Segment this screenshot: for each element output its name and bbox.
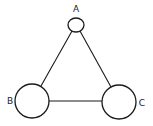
node-c — [102, 85, 136, 119]
node-a — [68, 18, 84, 32]
node-c-label: C — [139, 98, 145, 108]
node-b — [15, 84, 49, 118]
node-b-label: B — [7, 96, 13, 106]
edge-a-b — [41, 31, 72, 86]
triangle-graph-diagram: A B C — [0, 0, 153, 126]
edge-a-c — [80, 31, 111, 87]
node-a-label: A — [73, 4, 80, 14]
